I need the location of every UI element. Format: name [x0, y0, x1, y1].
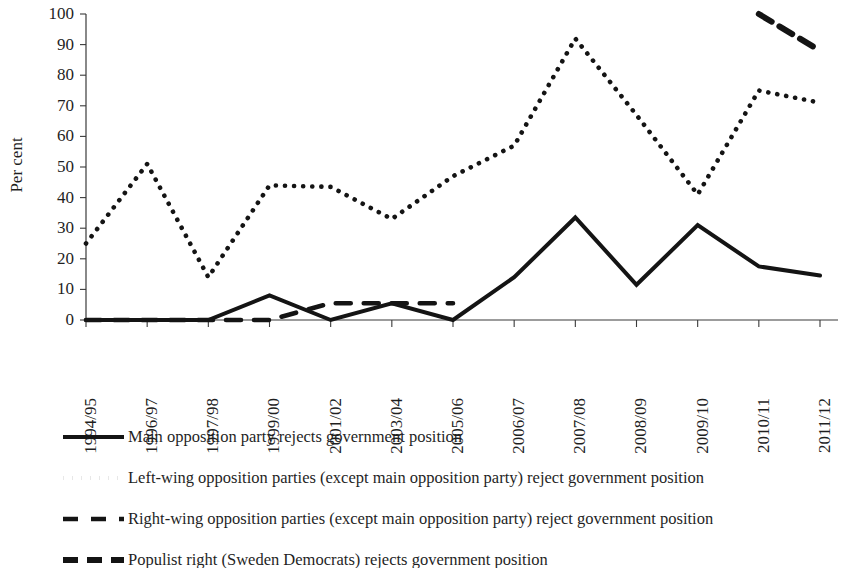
y-tick-label: 60: [57, 126, 74, 145]
x-tick-label: 2006/07: [509, 398, 528, 454]
y-axis-title: Per cent: [7, 137, 26, 193]
legend-label: Main opposition party rejects government…: [128, 427, 462, 446]
legend-item: Left-wing opposition parties (except mai…: [63, 468, 704, 487]
chart-figure: Per cent 0102030405060708090100 1994/951…: [0, 0, 843, 568]
legend-item: Populist right (Sweden Democrats) reject…: [63, 550, 548, 568]
y-tick-label: 50: [57, 157, 74, 176]
legend-label: Populist right (Sweden Democrats) reject…: [128, 550, 548, 568]
y-tick-label: 80: [57, 65, 74, 84]
legend-label: Left-wing opposition parties (except mai…: [128, 468, 704, 487]
y-tick-label: 0: [66, 310, 75, 329]
y-tick-label: 40: [57, 188, 74, 207]
x-tick-label: 2009/10: [693, 398, 712, 454]
y-tick-label: 20: [57, 249, 74, 268]
y-tick-label: 70: [57, 96, 74, 115]
x-tick-label: 2011/12: [815, 398, 834, 453]
x-tick-label: 2010/11: [754, 398, 773, 453]
y-tick-label: 30: [57, 218, 74, 237]
y-tick-label: 90: [57, 35, 74, 54]
legend-item: Right-wing opposition parties (except ma…: [63, 509, 713, 528]
x-tick-label: 2008/09: [631, 398, 650, 454]
y-tick-label: 100: [49, 4, 75, 23]
y-axis-title-label: Per cent: [7, 137, 26, 193]
legend-label: Right-wing opposition parties (except ma…: [128, 509, 713, 528]
y-tick-label: 10: [57, 279, 74, 298]
x-tick-label: 1994/95: [81, 398, 100, 454]
x-tick-label: 2007/08: [570, 398, 589, 454]
